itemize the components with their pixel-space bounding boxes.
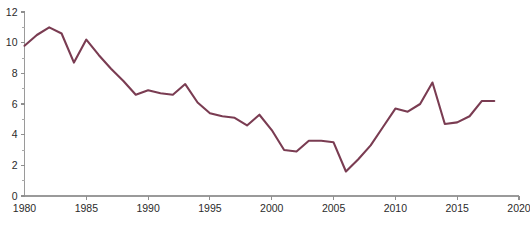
x-tick-label: 2010: [384, 202, 408, 214]
y-tick-label: 6: [12, 98, 18, 110]
x-tick-label: 1990: [136, 202, 160, 214]
x-tick-label: 2015: [446, 202, 470, 214]
x-tick-label: 2005: [322, 202, 346, 214]
x-tick-label: 2000: [260, 202, 284, 214]
y-tick-label: 2: [12, 159, 18, 171]
x-tick-label: 1995: [198, 202, 222, 214]
x-tick-label: 1985: [75, 202, 99, 214]
x-tick-label: 1980: [13, 202, 37, 214]
y-tick-label: 12: [6, 6, 18, 18]
line-chart: 024681012 198019851990199520002005201020…: [0, 0, 530, 229]
plot-background: [0, 0, 530, 229]
x-tick-label: 2020: [507, 202, 530, 214]
y-tick-label: 8: [12, 67, 18, 79]
y-tick-label: 10: [6, 36, 18, 48]
y-tick-label: 4: [12, 128, 18, 140]
chart-canvas: 024681012 198019851990199520002005201020…: [0, 0, 530, 229]
y-tick-label: 0: [12, 190, 18, 202]
